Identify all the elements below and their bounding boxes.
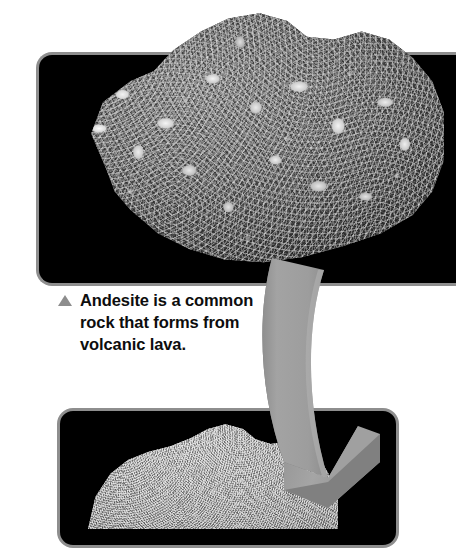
caption-text: Andesite is a common rock that forms fro… — [80, 290, 253, 355]
andesite-caption: Andesite is a common rock that forms fro… — [58, 290, 308, 355]
triangle-up-icon — [58, 295, 72, 306]
